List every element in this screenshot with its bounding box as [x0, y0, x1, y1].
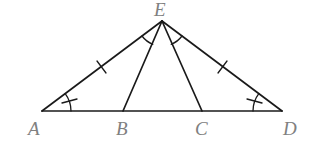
point-label-C: C [195, 119, 208, 138]
angle-arc-CED [171, 36, 182, 44]
segment-BE [123, 21, 162, 111]
diagram-canvas [0, 0, 315, 150]
geometry-diagram: E A B C D [0, 0, 315, 150]
point-label-D: D [283, 119, 297, 138]
equal-length-tick-DE [218, 61, 227, 73]
point-label-E: E [154, 0, 166, 19]
segment-AE [42, 21, 162, 111]
equal-length-tick-AE [97, 61, 106, 73]
segment-CE [162, 21, 202, 111]
angle-arc-AEB [142, 36, 153, 44]
point-label-B: B [116, 119, 128, 138]
point-label-A: A [28, 119, 40, 138]
segment-DE [162, 21, 282, 111]
